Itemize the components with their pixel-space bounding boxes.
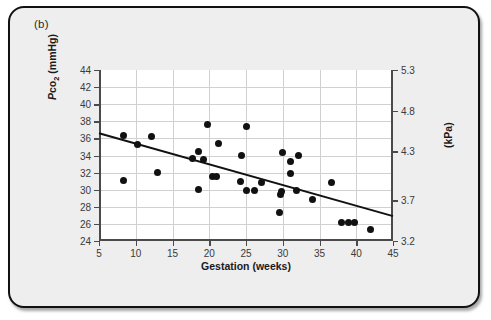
data-point (338, 219, 345, 226)
regression-line (99, 70, 393, 241)
y-axis-left-tick-label: 28 (80, 201, 91, 212)
data-point (251, 187, 258, 194)
x-axis-tick-label: 25 (240, 248, 251, 259)
scatter-plot: 2426283032343638404244 3.23.74.34.85.3 5… (10, 8, 482, 310)
data-point (295, 152, 302, 159)
y-axis-left-tick-label: 36 (80, 133, 91, 144)
y-axis-right-tick-label: 3.7 (401, 195, 415, 206)
data-point (243, 123, 250, 130)
x-axis-tick-label: 5 (96, 248, 102, 259)
data-point (134, 141, 141, 148)
x-axis-tick-label: 10 (130, 248, 141, 259)
figure-panel: (b) 2426283032343638404244 3.23.74.34.85… (8, 6, 480, 308)
x-axis-tick (136, 241, 137, 246)
data-point (204, 121, 211, 128)
y-axis-right-tick (393, 151, 398, 152)
data-point (279, 149, 286, 156)
x-axis-tick-label: 40 (351, 248, 362, 259)
data-point (120, 177, 127, 184)
x-axis-tick (393, 241, 394, 246)
y-axis-left-tick-label: 30 (80, 184, 91, 195)
x-axis-tick (246, 241, 247, 246)
data-point (287, 170, 294, 177)
data-point (351, 219, 358, 226)
y-axis-left-tick-label: 40 (80, 99, 91, 110)
data-point (215, 140, 222, 147)
data-point (195, 148, 202, 155)
y-axis-right-tick-label: 3.2 (401, 236, 415, 247)
x-axis-tick (173, 241, 174, 246)
data-point (309, 196, 316, 203)
x-axis-tick (356, 241, 357, 246)
y-axis-left-label: Pco2 (mmHg) (46, 34, 61, 100)
x-axis-label: Gestation (weeks) (99, 260, 393, 272)
x-axis-tick-label: 35 (314, 248, 325, 259)
x-axis-tick-label: 15 (167, 248, 178, 259)
x-axis-tick (99, 241, 100, 246)
y-axis-left-tick-label: 38 (80, 116, 91, 127)
x-axis-tick (283, 241, 284, 246)
y-axis-right-label: (kPa) (442, 122, 454, 148)
y-axis-right-tick-label: 4.8 (401, 105, 415, 116)
data-point (278, 188, 285, 195)
x-axis-tick-label: 45 (387, 248, 398, 259)
x-axis-tick (209, 241, 210, 246)
y-axis-left-tick-label: 24 (80, 236, 91, 247)
y-axis-right-tick (393, 70, 398, 71)
y-axis-left-tick-label: 26 (80, 218, 91, 229)
x-axis-tick-label: 30 (277, 248, 288, 259)
data-point (237, 178, 244, 185)
y-axis-right-tick-label: 5.3 (401, 65, 415, 76)
y-axis-left-tick-label: 44 (80, 65, 91, 76)
plot-area: 2426283032343638404244 3.23.74.34.85.3 5… (99, 70, 393, 241)
y-axis-left-tick-label: 32 (80, 167, 91, 178)
y-axis-right-tick (393, 200, 398, 201)
y-axis-left-tick-label: 34 (80, 150, 91, 161)
y-axis-right-tick-label: 4.3 (401, 146, 415, 157)
y-axis-right-tick (393, 111, 398, 112)
x-axis-tick-label: 20 (204, 248, 215, 259)
x-axis-tick (320, 241, 321, 246)
y-axis-left-tick-label: 42 (80, 82, 91, 93)
